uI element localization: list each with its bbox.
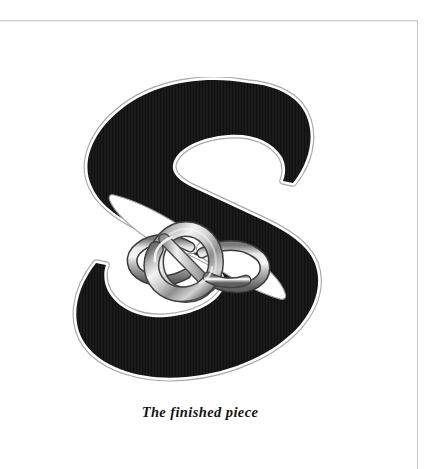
letter-s-artwork: [52, 77, 342, 397]
figure-caption: The finished piece: [0, 404, 400, 421]
scanned-page: The finished piece: [0, 0, 429, 469]
figure-block: The finished piece: [0, 22, 417, 469]
page-border-right: [417, 20, 418, 469]
